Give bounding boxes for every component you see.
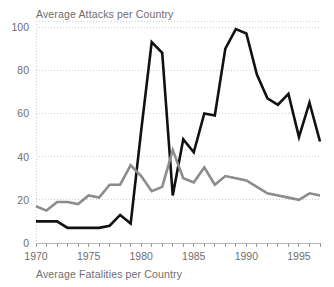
chart-container: Average Attacks per Country 020406080100… xyxy=(0,0,334,287)
y-axis-tick-label: 40 xyxy=(17,151,29,163)
x-axis-tick-label: 1975 xyxy=(77,250,101,262)
fatalities-series-label: Average Fatalities per Country xyxy=(36,268,182,280)
x-axis-tick-label: 1970 xyxy=(24,250,48,262)
x-axis-tick-label: 1985 xyxy=(182,250,206,262)
y-axis-tick-label: 60 xyxy=(17,107,29,119)
series-line-average-attacks-per-country xyxy=(36,29,320,228)
line-chart-plot: 020406080100 197019751980198519901995 xyxy=(0,0,334,287)
series-line-average-fatalities-per-country xyxy=(36,150,320,210)
x-axis-tick-label: 1980 xyxy=(130,250,154,262)
gridlines xyxy=(36,21,320,243)
data-series xyxy=(36,29,320,228)
x-axis-tick-label: 1995 xyxy=(287,250,311,262)
y-axis-ticks: 020406080100 xyxy=(11,21,29,249)
x-axis-ticks: 197019751980198519901995 xyxy=(24,243,320,262)
y-axis-tick-label: 80 xyxy=(17,64,29,76)
y-axis-tick-label: 100 xyxy=(11,21,29,33)
y-axis-tick-label: 0 xyxy=(23,237,29,249)
y-axis-tick-label: 20 xyxy=(17,194,29,206)
x-axis-tick-label: 1990 xyxy=(235,250,259,262)
